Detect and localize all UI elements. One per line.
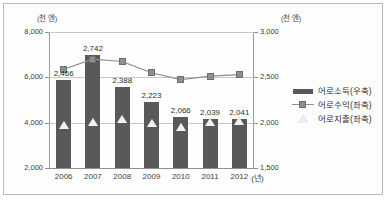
right-tick-label: 2,000 — [260, 118, 292, 127]
right-tick-mark — [254, 77, 258, 78]
right-tick-mark — [254, 32, 258, 33]
revenue-marker-2008[interactable] — [119, 58, 126, 65]
bar-value-label-2008: 2,388 — [102, 76, 142, 85]
left-tick-label: 2,000 — [13, 163, 43, 172]
right-tick-mark — [254, 123, 258, 124]
legend-label-income: 어로소득(우축) — [318, 86, 372, 96]
left-tick-mark — [45, 77, 49, 78]
revenue-marker-2009[interactable] — [148, 69, 155, 76]
left-axis-unit-label: (천 엔) — [37, 12, 57, 23]
revenue-marker-2007[interactable] — [89, 56, 96, 63]
bar-value-label-2007: 2,742 — [73, 44, 113, 53]
right-tick-label: 2,500 — [260, 72, 292, 81]
bar-value-label-2012: 2,041 — [219, 108, 259, 117]
legend-item-expense[interactable]: 어로지출(좌축) — [292, 112, 372, 126]
legend-label-revenue: 어로수익(좌축) — [318, 100, 372, 110]
expense-marker-2009[interactable] — [147, 119, 157, 127]
line-square-marker-icon — [292, 100, 314, 110]
revenue-marker-2011[interactable] — [207, 73, 214, 80]
revenue-marker-2010[interactable] — [177, 76, 184, 83]
left-tick-label: 8,000 — [13, 27, 43, 36]
expense-marker-2007[interactable] — [88, 118, 98, 126]
right-tick-mark — [254, 168, 258, 169]
revenue-marker-2012[interactable] — [236, 71, 243, 78]
gridline — [49, 168, 254, 169]
left-tick-label: 6,000 — [13, 72, 43, 81]
left-tick-mark — [45, 32, 49, 33]
bar-value-label-2009: 2,223 — [132, 91, 172, 100]
right-tick-label: 3,000 — [260, 27, 292, 36]
right-tick-label: 1,500 — [260, 163, 292, 172]
expense-marker-2010[interactable] — [176, 123, 186, 131]
legend-item-income[interactable]: 어로소득(우축) — [292, 84, 372, 98]
plot-area: 2,4662,7422,3882,2232,0662,0392,041 — [49, 32, 254, 168]
bar-marker-icon — [292, 86, 314, 96]
expense-marker-2006[interactable] — [59, 121, 69, 129]
triangle-marker-icon — [292, 114, 314, 124]
left-tick-label: 4,000 — [13, 118, 43, 127]
expense-marker-2011[interactable] — [205, 118, 215, 126]
expense-marker-2008[interactable] — [117, 115, 127, 123]
left-tick-mark — [45, 123, 49, 124]
right-axis-unit-label: (천 엔) — [281, 12, 301, 23]
legend-item-revenue[interactable]: 어로수익(좌축) — [292, 98, 372, 112]
legend-label-expense: 어로지출(좌축) — [318, 114, 372, 124]
chart-frame: (천 엔) (천 엔) 2,4662,7422,3882,2232,0662,0… — [3, 3, 383, 195]
expense-marker-2012[interactable] — [234, 117, 244, 125]
chart-legend: 어로소득(우축) 어로수익(좌축) 어로지출(좌축) — [292, 84, 372, 126]
bar-value-label-2006: 2,466 — [44, 69, 84, 78]
x-axis-unit-label: (년) — [251, 172, 263, 183]
left-tick-mark — [45, 168, 49, 169]
